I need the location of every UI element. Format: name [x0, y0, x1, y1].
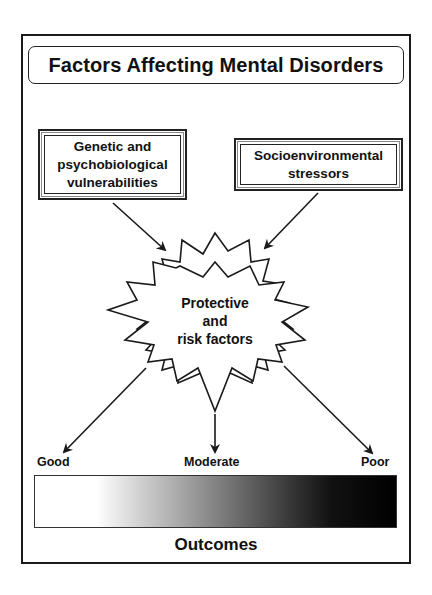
outcomes-title: Outcomes [0, 535, 432, 555]
arrow-socio-to-center [265, 193, 318, 248]
outcome-poor-label: Poor [361, 455, 389, 469]
outcome-good-label: Good [37, 455, 70, 469]
arrow-center-to-good [64, 368, 146, 452]
center-label: Protective and risk factors [165, 294, 265, 348]
outcome-gradient-bar [34, 475, 397, 528]
center-line-3: risk factors [165, 330, 265, 348]
outcome-moderate-label: Moderate [184, 455, 240, 469]
center-line-2: and [165, 312, 265, 330]
center-line-1: Protective [165, 294, 265, 312]
arrow-genetic-to-center [113, 203, 165, 250]
arrow-center-to-poor [284, 366, 372, 453]
